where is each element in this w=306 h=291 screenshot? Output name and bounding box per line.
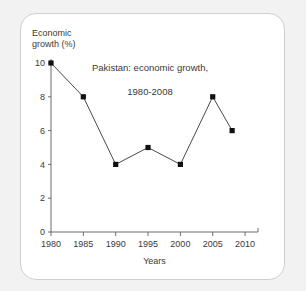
data-point-marker <box>178 162 183 167</box>
series-line <box>51 63 232 164</box>
data-point-marker <box>48 60 53 65</box>
y-tick-label: 10 <box>35 58 45 68</box>
y-tick-label: 2 <box>40 193 45 203</box>
x-tick-label: 2005 <box>203 239 223 249</box>
data-series <box>48 60 234 167</box>
plot-area: 02468101980198519901995200020052010 <box>0 0 306 291</box>
chart-figure: Economic growth (%) Pakistan: economic g… <box>0 0 306 291</box>
data-point-marker <box>210 94 215 99</box>
y-tick-label: 6 <box>40 126 45 136</box>
y-tick-label: 0 <box>40 227 45 237</box>
x-tick-label: 1985 <box>73 239 93 249</box>
x-tick-label: 2010 <box>235 239 255 249</box>
screenshot-root: Economic growth (%) Pakistan: economic g… <box>0 0 306 291</box>
x-tick-label: 1995 <box>138 239 158 249</box>
data-point-marker <box>230 128 235 133</box>
data-point-marker <box>145 145 150 150</box>
axes <box>48 59 258 236</box>
x-axis-title: Years <box>51 256 258 266</box>
y-tick-label: 4 <box>40 160 45 170</box>
data-point-marker <box>81 94 86 99</box>
x-tick-label: 1980 <box>41 239 61 249</box>
tick-labels: 02468101980198519901995200020052010 <box>35 58 255 249</box>
x-tick-label: 1990 <box>106 239 126 249</box>
x-tick-label: 2000 <box>170 239 190 249</box>
data-point-marker <box>113 162 118 167</box>
y-tick-label: 8 <box>40 92 45 102</box>
